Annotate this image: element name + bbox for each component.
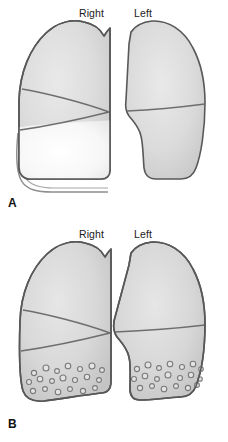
left-lung-outline-a <box>126 21 205 179</box>
left-lung-b <box>114 242 205 400</box>
panel-b: Right Left B <box>0 221 228 442</box>
panel-a: Right Left A <box>0 0 228 221</box>
right-lower-lobe-hyperinflated-a <box>14 120 115 185</box>
panel-letter-b: B <box>8 417 17 431</box>
panel-b-illustration <box>0 221 228 442</box>
left-lung-label-a: Left <box>134 7 152 19</box>
panel-letter-a: A <box>8 196 17 210</box>
left-lung-label-b: Left <box>134 228 152 240</box>
right-lung-label-b: Right <box>79 228 104 240</box>
right-lung-b <box>20 242 111 401</box>
lung-figure: Right Left A <box>0 0 228 442</box>
right-lung-a <box>14 21 115 185</box>
panel-a-illustration <box>0 0 228 221</box>
left-lung-a <box>126 21 205 179</box>
right-lung-label-a: Right <box>79 7 104 19</box>
